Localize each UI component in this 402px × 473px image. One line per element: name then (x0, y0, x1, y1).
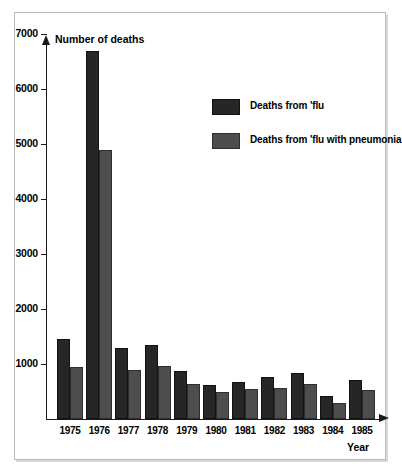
bar-group (261, 418, 287, 419)
y-axis-tick (41, 144, 47, 145)
bar-group (145, 418, 171, 419)
y-axis-tick-label: 7000 (0, 27, 38, 39)
y-axis-tick (41, 254, 47, 255)
bar (158, 366, 171, 419)
bar-group (203, 418, 229, 419)
bar (145, 345, 158, 419)
bar (362, 390, 375, 419)
x-axis-tick-label: 1985 (342, 425, 382, 436)
y-axis-line (46, 44, 47, 419)
bar (216, 392, 229, 420)
y-axis-tick-label: 6000 (0, 82, 38, 94)
bar-group (57, 418, 83, 419)
bar (115, 348, 128, 420)
bar (187, 384, 200, 419)
y-axis-title: Number of deaths (55, 33, 144, 45)
bar (333, 403, 346, 420)
y-axis-tick-label: 2000 (0, 302, 38, 314)
black-swatch-icon (212, 99, 240, 115)
y-axis-tick (41, 364, 47, 365)
legend-label: Deaths from 'flu (250, 100, 324, 111)
bar-group (349, 418, 375, 419)
bar (86, 51, 99, 420)
bar-chart-plot-area: Number of deaths Year 100020003000400050… (15, 13, 387, 461)
bar (232, 382, 245, 419)
y-axis-tick (41, 199, 47, 200)
bar (128, 370, 141, 420)
bar-group (291, 418, 317, 419)
grey-swatch-icon (212, 133, 240, 149)
bar (261, 377, 274, 419)
bar (304, 384, 317, 419)
legend-label: Deaths from 'flu with pneumonia (250, 134, 402, 145)
bar-group (115, 418, 141, 419)
bar (174, 371, 187, 419)
bar (245, 389, 258, 419)
bar-group (232, 418, 258, 419)
x-axis-arrow-icon (379, 414, 389, 422)
y-axis-tick (41, 34, 47, 35)
bar (57, 339, 70, 419)
bar (70, 367, 83, 419)
x-axis-line (46, 419, 384, 420)
y-axis-tick-label: 1000 (0, 357, 38, 369)
y-axis-tick (41, 309, 47, 310)
x-axis-title: Year (347, 441, 369, 453)
bar-group (86, 418, 112, 419)
chart-figure-box: Number of deaths Year 100020003000400050… (14, 12, 386, 460)
y-axis-tick-label: 4000 (0, 192, 38, 204)
bar (99, 150, 112, 420)
bar (274, 388, 287, 419)
y-axis-tick-label: 5000 (0, 137, 38, 149)
bar (291, 373, 304, 419)
bar (349, 380, 362, 419)
y-axis-tick-label: 3000 (0, 247, 38, 259)
y-axis-tick (41, 89, 47, 90)
bar-group (174, 418, 200, 419)
bar-group (320, 418, 346, 419)
bar (203, 385, 216, 419)
y-axis-arrow-icon (42, 35, 50, 45)
bar (320, 396, 333, 419)
